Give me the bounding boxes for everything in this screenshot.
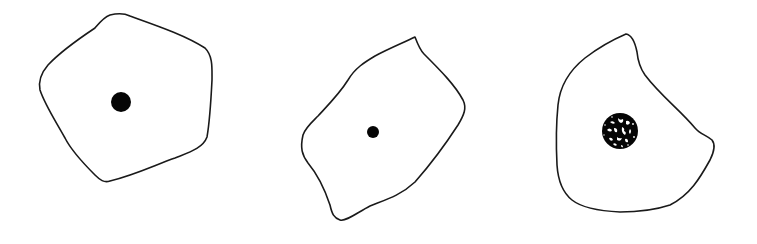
cell-2-membrane [302, 37, 465, 220]
cell-3-nucleus [602, 113, 638, 149]
cell-1 [39, 14, 212, 182]
cell-2 [302, 37, 465, 220]
cell-2-nucleus [367, 126, 379, 138]
cell-1-nucleus [111, 92, 131, 112]
cell-diagram [0, 0, 757, 244]
cell-3 [556, 34, 714, 212]
